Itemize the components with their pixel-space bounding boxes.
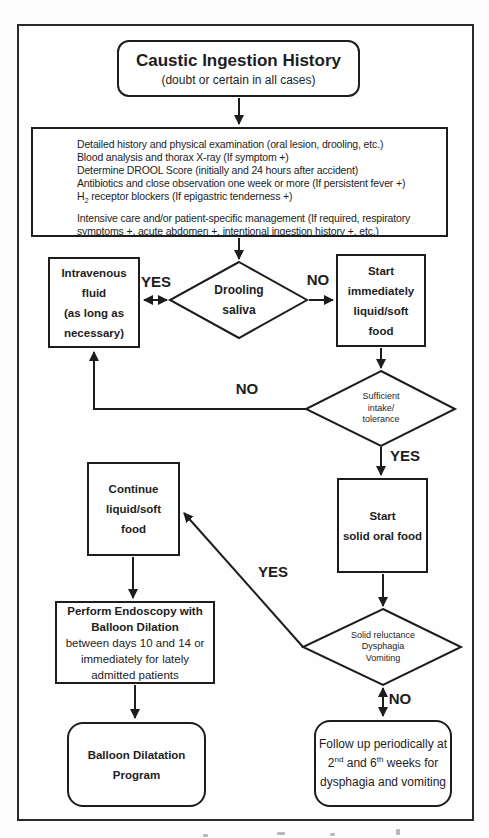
followup-line-2: 2nd and 6th weeks for [328, 754, 438, 773]
start-solid-food-node: Start solid oral food [337, 478, 428, 573]
intravenous-fluid-node: Intravenous fluid (as long as necessary) [48, 257, 140, 348]
page-subtitle: (doubt or certain in all cases) [161, 72, 315, 88]
label-sufficient-no: NO [225, 379, 269, 399]
cropped-caption-fragment [330, 833, 335, 836]
initial-management-node: Detailed history and physical examinatio… [31, 127, 448, 237]
flowchart-page: Caustic Ingestion History (doubt or cert… [0, 0, 489, 838]
continue-liquid-food-node: Continue liquid/soft food [87, 462, 180, 556]
page-title: Caustic Ingestion History [136, 50, 341, 72]
balloon-dilatation-program-node: Balloon Dilatation Program [67, 722, 206, 807]
solid-reluctance-decision-label: Solid reluctance Dysphagia Vomiting [313, 627, 453, 667]
label-drooling-yes: YES [134, 272, 178, 292]
followup-week-2: 2 [328, 756, 335, 770]
label-reluctance-yes: YES [251, 562, 295, 582]
followup-line-3: dysphagia and vomiting [320, 773, 446, 792]
start-liquid-food-node: Start immediately liquid/soft food [336, 254, 426, 347]
cropped-caption-fragment [203, 834, 208, 837]
endoscopy-balloon-dilation-node: Perform Endoscopy with Balloon Dilation … [55, 601, 215, 684]
h2-post: receptor blockers (If epigastric tendern… [88, 190, 292, 202]
cropped-caption-fragment [396, 829, 400, 835]
cropped-caption-fragment [277, 832, 285, 835]
followup-node: Follow up periodically at 2nd and 6th we… [314, 720, 452, 807]
protocol-line-intensive: Intensive care and/or patient-specific m… [77, 212, 410, 238]
endoscopy-detail: between days 10 and 14 or immediately fo… [66, 635, 205, 683]
drooling-saliva-decision-label: Drooling saliva [189, 280, 289, 320]
protocol-line-1: Detailed history and physical examinatio… [77, 138, 383, 151]
label-sufficient-yes: YES [383, 446, 427, 466]
protocol-line-h2: H2 receptor blockers (If epigastric tend… [77, 190, 292, 207]
followup-line-1: Follow up periodically at [319, 735, 447, 754]
followup-and-6: and 6 [343, 756, 376, 770]
followup-weeks-for: weeks for [383, 756, 438, 770]
label-drooling-no: NO [296, 270, 340, 290]
label-reluctance-no: NO [378, 689, 422, 709]
endoscopy-title: Perform Endoscopy with Balloon Dilation [67, 603, 202, 635]
protocol-line-4: Antibiotics and close observation one we… [77, 177, 405, 190]
protocol-line-2: Blood analysis and thorax X-ray (If symp… [77, 151, 289, 164]
sufficient-intake-decision-label: Sufficient intake/ tolerance [331, 390, 431, 427]
protocol-line-3: Determine DROOL Score (initially and 24 … [77, 164, 358, 177]
title-node: Caustic Ingestion History (doubt or cert… [117, 40, 360, 97]
